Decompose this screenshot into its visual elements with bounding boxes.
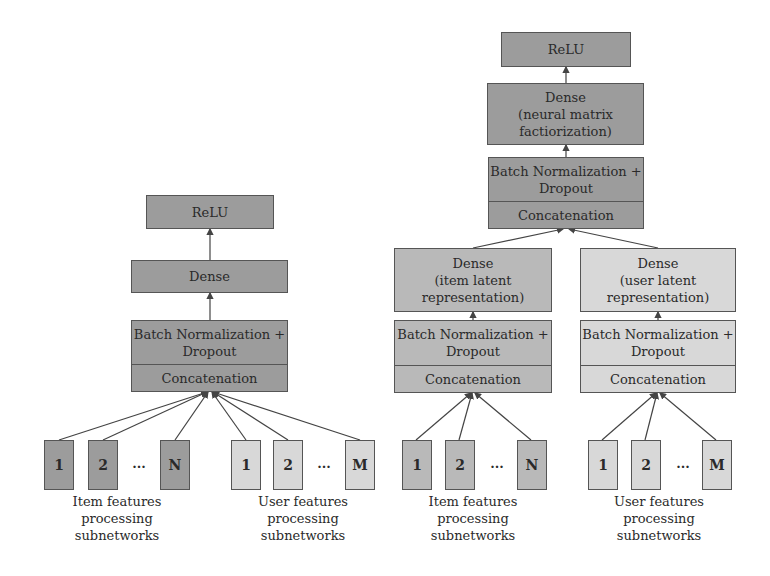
right-user-input-2: 2 bbox=[631, 440, 661, 490]
left-item-caption: Item features processing subnetworks bbox=[47, 493, 187, 544]
item-branch-concatenation-layer: Concatenation bbox=[395, 365, 551, 392]
right-user-ellipsis: ... bbox=[671, 456, 695, 471]
left-user-input-1: 1 bbox=[231, 440, 261, 490]
left-dense-layer: Dense bbox=[131, 260, 288, 293]
item-latent-dense-layer: Dense (item latent representation) bbox=[394, 248, 552, 312]
left-item-ellipsis: ... bbox=[127, 456, 151, 471]
user-branch-bn-concat-block: Batch Normalization + Dropout Concatenat… bbox=[580, 320, 736, 393]
item-branch-bn-dropout-layer: Batch Normalization + Dropout bbox=[395, 321, 551, 365]
right-bn-concat-block: Batch Normalization + Dropout Concatenat… bbox=[488, 157, 644, 229]
right-relu-layer: ReLU bbox=[501, 32, 631, 67]
right-user-input-m: M bbox=[702, 440, 732, 490]
right-user-caption: User features processing subnetworks bbox=[589, 493, 729, 544]
item-branch-bn-concat-block: Batch Normalization + Dropout Concatenat… bbox=[394, 320, 552, 393]
user-latent-dense-layer: Dense (user latent representation) bbox=[580, 248, 736, 312]
left-item-input-2: 2 bbox=[88, 440, 118, 490]
left-bn-concat-block: Batch Normalization + Dropout Concatenat… bbox=[131, 320, 288, 392]
left-user-caption: User features processing subnetworks bbox=[233, 493, 373, 544]
left-item-input-1: 1 bbox=[44, 440, 74, 490]
left-item-input-n: N bbox=[160, 440, 190, 490]
left-relu-layer: ReLU bbox=[146, 195, 274, 229]
right-user-input-1: 1 bbox=[588, 440, 618, 490]
user-branch-bn-dropout-layer: Batch Normalization + Dropout bbox=[581, 321, 735, 365]
user-branch-concatenation-layer: Concatenation bbox=[581, 365, 735, 392]
left-user-ellipsis: ... bbox=[312, 456, 336, 471]
right-item-ellipsis: ... bbox=[485, 456, 509, 471]
left-bn-dropout-layer: Batch Normalization + Dropout bbox=[132, 321, 287, 364]
right-concatenation-layer: Concatenation bbox=[489, 201, 643, 228]
right-item-input-2: 2 bbox=[445, 440, 475, 490]
right-dense-nmf-layer: Dense (neural matrix factiorization) bbox=[487, 83, 644, 145]
left-user-input-2: 2 bbox=[273, 440, 303, 490]
right-item-input-n: N bbox=[517, 440, 547, 490]
diagram-canvas: ReLU Dense Batch Normalization + Dropout… bbox=[0, 0, 770, 576]
left-concatenation-layer: Concatenation bbox=[132, 364, 287, 391]
right-item-input-1: 1 bbox=[402, 440, 432, 490]
left-user-input-m: M bbox=[345, 440, 375, 490]
right-item-caption: Item features processing subnetworks bbox=[403, 493, 543, 544]
right-bn-dropout-layer: Batch Normalization + Dropout bbox=[489, 158, 643, 201]
